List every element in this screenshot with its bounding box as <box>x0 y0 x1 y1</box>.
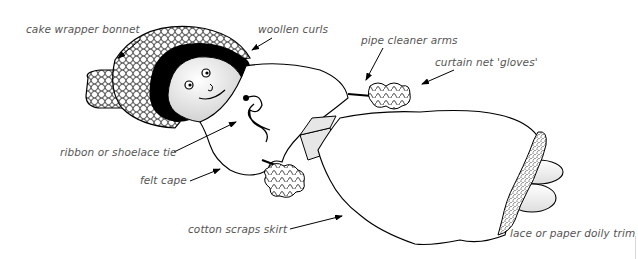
label-cake-wrapper-bonnet: cake wrapper bonnet <box>26 23 140 35</box>
label-felt-cape: felt cape <box>140 174 187 186</box>
label-pipe-cleaner-arms: pipe cleaner arms <box>361 34 458 46</box>
label-ribbon-or-shoelace-tie: ribbon or shoelace tie <box>60 146 177 158</box>
doll-diagram: cake wrapper bonnet woollen curls pipe c… <box>0 0 638 259</box>
arrow-arms <box>366 48 383 80</box>
label-lace-or-paper-doily-trim: lace or paper doily trim <box>510 227 635 239</box>
arrow-gloves <box>422 70 454 84</box>
doll-illustration <box>0 0 638 259</box>
edge-divider <box>635 236 636 259</box>
label-woollen-curls: woollen curls <box>258 23 328 35</box>
arrow-cape <box>190 169 220 181</box>
label-curtain-net-gloves: curtain net 'gloves' <box>435 56 538 68</box>
arrow-curls <box>252 38 272 50</box>
arrow-skirt <box>290 216 342 229</box>
label-cotton-scraps-skirt: cotton scraps skirt <box>188 223 287 235</box>
